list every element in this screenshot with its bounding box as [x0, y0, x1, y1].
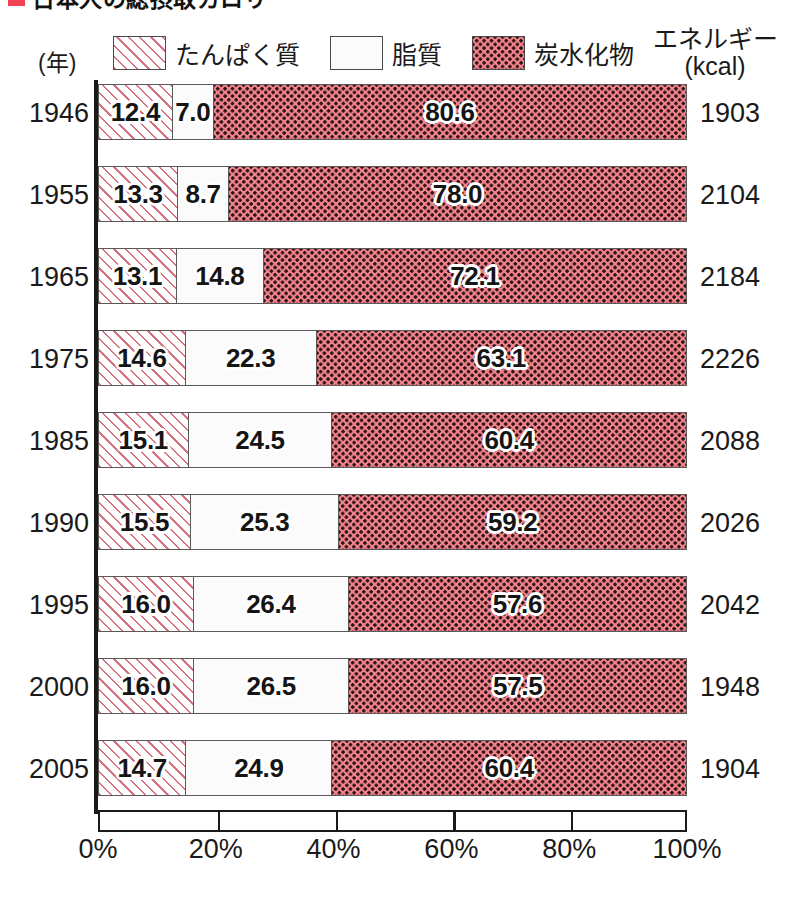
- bar-value-fat: 14.8: [195, 261, 244, 292]
- bar-segment-protein: 13.1: [99, 249, 176, 303]
- bar-value-protein: 14.7: [117, 753, 166, 784]
- bar-segment-protein: 15.1: [99, 413, 188, 467]
- bar-segment-fat: 26.4: [193, 577, 348, 631]
- legend-label-carb: 炭水化物: [534, 35, 634, 71]
- row-energy-value: 1948: [700, 659, 793, 715]
- bar-value-protein: 15.5: [120, 507, 169, 538]
- bar-value-carb: 78.0: [433, 179, 482, 210]
- bar-segment-protein: 16.0: [99, 659, 193, 713]
- page-title: 日本人の総摂取カロリー: [32, 0, 291, 10]
- bar-value-fat: 24.5: [235, 425, 284, 456]
- bar-segment-protein: 13.3: [99, 167, 177, 221]
- chart-plot-area: 12.47.080.61946190313.38.778.01955210413…: [98, 84, 687, 810]
- bar-value-carb: 57.6: [493, 589, 542, 620]
- row-energy-value: 2088: [700, 413, 793, 469]
- x-axis-tick-label: 0%: [78, 834, 117, 865]
- x-axis-tick-label: 40%: [307, 834, 361, 865]
- legend-item-fat: 脂質: [330, 28, 442, 78]
- bar-value-protein: 12.4: [111, 97, 160, 128]
- legend-swatch-carb: [472, 36, 525, 70]
- bar-segment-fat: 25.3: [190, 495, 339, 549]
- year-axis-label: (年): [38, 44, 76, 78]
- x-axis-tick: [571, 812, 573, 832]
- legend-item-protein: たんぱく質: [113, 28, 300, 78]
- bar-value-fat: 25.3: [240, 507, 289, 538]
- legend-label-fat: 脂質: [392, 35, 442, 71]
- bar-segment-fat: 24.9: [185, 741, 331, 795]
- bar-segment-carb: 60.4: [331, 413, 686, 467]
- bar-value-protein: 13.1: [113, 261, 162, 292]
- chart-row: 16.026.557.520001948: [98, 658, 687, 714]
- bar-value-carb: 60.4: [485, 753, 534, 784]
- bar-value-carb: 80.6: [425, 97, 474, 128]
- chart-row: 13.114.872.119652184: [98, 248, 687, 304]
- x-axis-tick-label: 60%: [424, 834, 478, 865]
- bar-segment-fat: 22.3: [185, 331, 316, 385]
- row-year-label: 1955: [3, 167, 89, 223]
- bar-value-fat: 26.5: [246, 671, 295, 702]
- row-energy-value: 1904: [700, 741, 793, 797]
- row-year-label: 1995: [3, 577, 89, 633]
- row-year-label: 1946: [3, 85, 89, 141]
- row-year-label: 2005: [3, 741, 89, 797]
- chart-row: 15.124.560.419852088: [98, 412, 687, 468]
- bar-segment-carb: 72.1: [263, 249, 686, 303]
- bar-segment-carb: 60.4: [331, 741, 686, 795]
- bar-segment-carb: 59.2: [338, 495, 686, 549]
- chart-row: 16.026.457.619952042: [98, 576, 687, 632]
- chart-row: 14.724.960.420051904: [98, 740, 687, 796]
- row-year-label: 1975: [3, 331, 89, 387]
- bar-segment-carb: 57.6: [348, 577, 686, 631]
- row-energy-value: 2042: [700, 577, 793, 633]
- bar-value-carb: 57.5: [493, 671, 542, 702]
- bar-segment-fat: 8.7: [177, 167, 228, 221]
- bar-value-protein: 14.6: [117, 343, 166, 374]
- row-energy-value: 2026: [700, 495, 793, 551]
- bar-segment-protein: 15.5: [99, 495, 190, 549]
- energy-axis-label: エネルギー (kcal): [645, 26, 785, 80]
- bar-segment-fat: 24.5: [188, 413, 332, 467]
- bar-value-fat: 24.9: [234, 753, 283, 784]
- x-axis-tick-labels: 0%20%40%60%80%100%: [98, 834, 687, 868]
- bar-segment-fat: 26.5: [193, 659, 349, 713]
- bar-value-fat: 8.7: [185, 179, 220, 210]
- chart-row: 14.622.363.119752226: [98, 330, 687, 386]
- bar-value-carb: 72.1: [450, 261, 499, 292]
- x-axis-tick: [218, 812, 220, 832]
- bar-value-fat: 22.3: [226, 343, 275, 374]
- legend-swatch-protein: [113, 36, 166, 70]
- energy-axis-label-line2: (kcal): [645, 53, 785, 80]
- chart-row: 12.47.080.619461903: [98, 84, 687, 140]
- bar-segment-carb: 63.1: [316, 331, 686, 385]
- title-marker-icon: [8, 0, 25, 6]
- x-axis-tick-label: 100%: [652, 834, 721, 865]
- bar-segment-fat: 14.8: [176, 249, 263, 303]
- row-year-label: 1990: [3, 495, 89, 551]
- bar-segment-fat: 7.0: [172, 85, 213, 139]
- energy-axis-label-line1: エネルギー: [653, 25, 778, 53]
- bar-segment-carb: 78.0: [228, 167, 686, 221]
- bar-segment-protein: 16.0: [99, 577, 193, 631]
- bar-value-protein: 15.1: [119, 425, 168, 456]
- bar-value-protein: 16.0: [121, 671, 170, 702]
- row-energy-value: 1903: [700, 85, 793, 141]
- row-energy-value: 2226: [700, 331, 793, 387]
- x-axis-band: [98, 810, 687, 832]
- row-energy-value: 2184: [700, 249, 793, 305]
- bar-segment-protein: 14.6: [99, 331, 185, 385]
- bar-segment-carb: 80.6: [213, 85, 686, 139]
- row-year-label: 1965: [3, 249, 89, 305]
- legend-swatch-fat: [330, 36, 383, 70]
- chart-row: 15.525.359.219902026: [98, 494, 687, 550]
- row-year-label: 1985: [3, 413, 89, 469]
- bar-value-carb: 63.1: [477, 343, 526, 374]
- x-axis-tick: [453, 812, 455, 832]
- bar-segment-protein: 14.7: [99, 741, 185, 795]
- row-year-label: 2000: [3, 659, 89, 715]
- x-axis-tick-label: 80%: [542, 834, 596, 865]
- bar-segment-carb: 57.5: [348, 659, 686, 713]
- bar-value-protein: 16.0: [121, 589, 170, 620]
- bar-value-carb: 59.2: [488, 507, 537, 538]
- bar-segment-protein: 12.4: [99, 85, 172, 139]
- x-axis-tick: [336, 812, 338, 832]
